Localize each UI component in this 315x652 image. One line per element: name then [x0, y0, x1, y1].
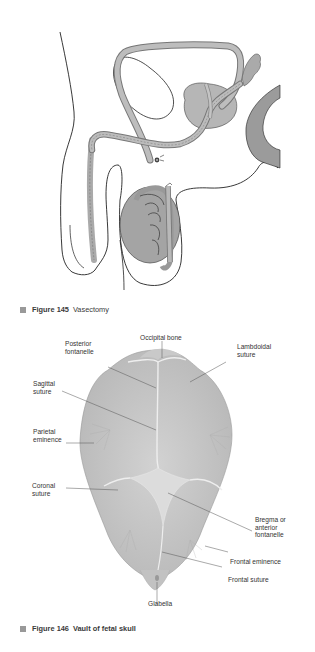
label-sagittal-suture: Sagittal suture	[33, 380, 55, 395]
figure-number: Figure 145	[32, 305, 69, 314]
label-parietal-eminence: Parietal eminence	[33, 428, 62, 443]
label-coronal-suture: Coronal suture	[32, 482, 55, 497]
figure-number: Figure 146	[32, 624, 69, 633]
label-occipital-bone: Occipital bone	[140, 334, 182, 342]
label-bregma: Bregma or anterior fontanelle	[255, 516, 286, 539]
label-posterior-fontanelle: Posterior fontanelle	[65, 340, 94, 355]
label-frontal-suture: Frontal suture	[228, 576, 269, 584]
caption-bullet-icon	[20, 307, 26, 313]
label-lambdoidal-suture: Lambdoidal suture	[237, 343, 271, 358]
vasectomy-illustration	[0, 0, 315, 300]
label-frontal-eminence: Frontal eminence	[230, 558, 281, 566]
figure-145-caption: Figure 145 Vasectomy	[20, 305, 109, 314]
label-glabella: Glabella	[148, 600, 172, 608]
figure-title: Vault of fetal skull	[73, 624, 136, 633]
figure-146-caption: Figure 146 Vault of fetal skull	[20, 624, 136, 633]
figure-title: Vasectomy	[73, 305, 109, 314]
caption-bullet-icon	[20, 626, 26, 632]
